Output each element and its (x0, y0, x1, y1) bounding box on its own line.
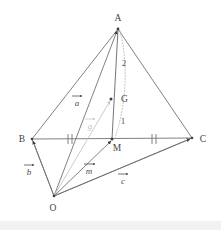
vector-label-b-group: b (24, 165, 34, 177)
vector-label-m-group: m (84, 164, 95, 176)
vector-arrow-b (33, 141, 54, 196)
vertex-dot-M (111, 138, 114, 141)
geometry-figure-canvas: A B C O M G 2 1 a g b m c (0, 0, 221, 230)
vertex-dot-O (53, 195, 56, 198)
vertex-dot-G (110, 98, 113, 101)
vector-label-b: b (27, 167, 32, 177)
segment-ratio-label-AG: 2 (122, 58, 127, 68)
vertex-dot-A (117, 28, 120, 31)
vertex-label-G: G (121, 94, 128, 104)
vertex-dot-C (191, 137, 194, 140)
vector-label-a-group: a (72, 96, 82, 108)
vector-label-a: a (75, 98, 80, 108)
vector-label-c: c (121, 176, 125, 186)
tetrahedron-diagram: A B C O M G 2 1 a g b m c (0, 0, 221, 230)
vector-arrow-m (54, 141, 111, 196)
edge-A-B (32, 29, 118, 139)
vector-label-c-group: c (118, 174, 128, 186)
vertex-label-M: M (113, 143, 122, 153)
vertex-label-O: O (50, 203, 57, 213)
bottom-separator-band (0, 221, 221, 230)
vertex-label-C: C (200, 134, 206, 144)
vertex-label-B: B (19, 134, 25, 144)
vertex-label-A: A (115, 13, 122, 23)
tick-mark-MC (152, 134, 156, 144)
edge-A-C (118, 29, 192, 138)
vector-arrow-g (54, 101, 110, 196)
segment-ratio-label-GM: 1 (121, 116, 126, 126)
edge-A-M (112, 29, 118, 139)
vector-arrow-c (54, 139, 190, 196)
vector-label-m: m (86, 166, 93, 176)
vector-label-g: g (88, 121, 93, 131)
vertex-dot-B (31, 138, 34, 141)
